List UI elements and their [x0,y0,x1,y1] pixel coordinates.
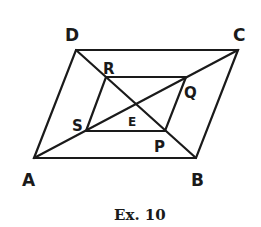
figure-caption: Ex. 10 [114,206,166,224]
diagonal-db [76,50,196,158]
label-s: S [72,117,83,135]
label-a: A [22,170,36,190]
parallelogram-diagram: D C A B R Q S E P Ex. 10 [0,0,261,227]
label-b: B [191,170,204,190]
label-d: D [65,25,79,45]
label-e: E [128,115,136,129]
label-r: R [103,60,115,78]
label-c: C [233,25,245,45]
label-q: Q [184,84,197,102]
label-p: P [154,138,165,156]
